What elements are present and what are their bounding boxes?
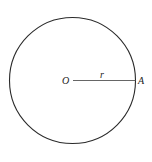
point-label-A: A <box>137 75 145 86</box>
radius-label-r: r <box>100 69 104 80</box>
center-label-O: O <box>62 75 69 86</box>
circle-diagram: O r A <box>0 0 152 162</box>
